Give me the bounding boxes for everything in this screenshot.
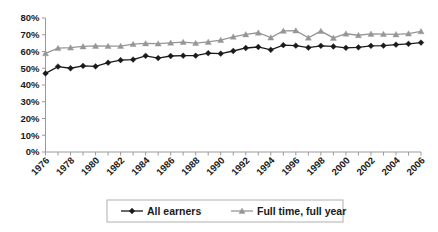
data-point-marker [381,43,387,49]
y-axis-ticks: 0%10%20%30%40%50%60%70%80% [20,12,45,157]
x-tick-label: 1978 [54,155,77,178]
data-point-marker [193,53,199,59]
data-point-marker [43,71,49,77]
y-tick-label: 70% [20,29,40,40]
data-point-marker [55,64,61,70]
data-point-marker [318,43,324,49]
data-point-marker [218,51,224,57]
data-point-marker [68,65,74,71]
data-point-marker [318,28,324,33]
data-point-marker [80,63,86,69]
y-tick-label: 50% [20,63,40,74]
x-tick-label: 1984 [129,154,152,177]
data-point-marker [180,53,186,59]
y-tick-label: 60% [20,46,40,57]
data-point-marker [330,44,336,50]
data-point-marker [406,41,412,47]
data-point-marker [93,64,99,70]
x-tick-label: 1976 [29,155,52,178]
y-tick-label: 10% [20,130,40,141]
x-tick-label: 1994 [254,154,277,177]
x-tick-label: 1982 [104,155,127,178]
legend-label-2: Full time, full year [257,205,346,217]
x-axis-ticks [46,152,422,156]
data-point-marker [356,44,362,50]
chart-container: 0%10%20%30%40%50%60%70%80% 1976197819801… [0,0,438,232]
data-point-marker [368,43,374,49]
x-tick-label: 1980 [79,155,102,178]
data-point-marker [130,57,136,63]
series-layer [42,28,424,77]
data-point-marker [393,42,399,48]
x-tick-label: 1996 [279,155,302,178]
line-chart: 0%10%20%30%40%50%60%70%80% 1976197819801… [0,0,438,232]
data-point-marker [168,53,174,59]
data-point-marker [268,47,274,53]
x-tick-label: 1990 [204,155,227,178]
data-point-marker [280,42,286,48]
data-point-marker [255,44,261,50]
chart-legend: All earnersFull time, full year [107,200,346,222]
data-point-marker [143,53,149,59]
data-point-marker [118,57,124,63]
series-1 [43,40,424,77]
x-tick-label: 1988 [179,155,202,178]
series-line [46,43,422,74]
y-tick-label: 80% [20,12,40,23]
data-point-marker [105,60,111,66]
data-point-marker [205,50,211,56]
x-tick-label: 1998 [304,155,327,178]
data-point-marker [155,55,161,61]
x-tick-label: 2002 [354,155,377,178]
y-tick-label: 40% [20,79,40,90]
data-point-marker [230,48,236,54]
x-axis-labels: 1976197819801982198419861988199019921994… [29,154,427,177]
x-tick-label: 1992 [229,155,252,178]
y-tick-label: 20% [20,113,40,124]
data-point-marker [418,40,424,46]
legend-label-1: All earners [147,205,201,217]
data-point-marker [343,45,349,51]
data-point-marker [293,43,299,49]
x-tick-label: 2006 [404,155,427,178]
y-tick-label: 0% [26,146,40,157]
x-tick-label: 2004 [379,154,402,177]
x-tick-label: 2000 [329,155,352,178]
data-point-marker [243,45,249,51]
x-tick-label: 1986 [154,155,177,178]
data-point-marker [305,45,311,51]
y-tick-label: 30% [20,96,40,107]
data-point-marker [305,35,311,40]
